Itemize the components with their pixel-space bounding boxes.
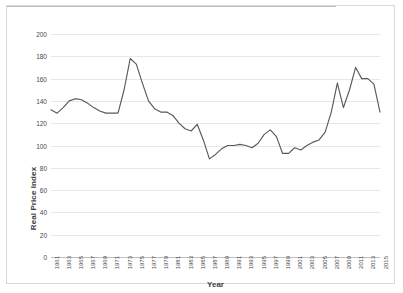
- x-tick-label: 1973: [127, 256, 134, 282]
- chart-container: Real Price Index 20018016014012010080604…: [6, 5, 395, 284]
- y-tick-label: 160: [7, 75, 47, 82]
- x-tick-label: 1997: [273, 256, 280, 282]
- x-tick-label: 2003: [309, 256, 316, 282]
- y-tick-label: 100: [7, 142, 47, 149]
- y-tick-label: 80: [7, 164, 47, 171]
- y-tick-label: 40: [7, 209, 47, 216]
- x-tick-label: 1979: [163, 256, 170, 282]
- x-tick-label: 1967: [90, 256, 97, 282]
- x-tick-label: 1961: [54, 256, 61, 282]
- y-tick-label: 140: [7, 97, 47, 104]
- plot-area: [51, 34, 380, 257]
- x-tick-label: 1999: [285, 256, 292, 282]
- x-tick-label: 2015: [383, 256, 390, 282]
- x-tick-label: 1987: [212, 256, 219, 282]
- x-tick-label: 2011: [358, 256, 365, 282]
- x-tick-label: 1963: [66, 256, 73, 282]
- line-series: [51, 34, 380, 257]
- y-tick-label: 120: [7, 120, 47, 127]
- x-tick-label: 1983: [188, 256, 195, 282]
- x-axis-title: Year: [51, 280, 380, 289]
- x-tick-label: 2007: [334, 256, 341, 282]
- y-axis-ticks: 200180160140120100806040200: [7, 34, 47, 257]
- x-tick-label: 1969: [102, 256, 109, 282]
- x-tick-label: 2009: [346, 256, 353, 282]
- x-tick-label: 1989: [224, 256, 231, 282]
- x-tick-label: 1977: [151, 256, 158, 282]
- y-tick-label: 200: [7, 31, 47, 38]
- x-tick-label: 2005: [322, 256, 329, 282]
- y-tick-label: 0: [7, 254, 47, 261]
- y-tick-label: 180: [7, 53, 47, 60]
- x-tick-label: 1981: [175, 256, 182, 282]
- x-axis-line: [7, 6, 336, 7]
- x-tick-label: 2001: [297, 256, 304, 282]
- x-tick-label: 1975: [139, 256, 146, 282]
- x-tick-label: 1991: [236, 256, 243, 282]
- x-tick-label: 1985: [200, 256, 207, 282]
- y-tick-label: 60: [7, 187, 47, 194]
- x-tick-label: 1995: [261, 256, 268, 282]
- x-tick-label: 1965: [78, 256, 85, 282]
- x-tick-label: 1971: [114, 256, 121, 282]
- x-tick-label: 1993: [248, 256, 255, 282]
- y-tick-label: 20: [7, 231, 47, 238]
- x-tick-label: 2013: [370, 256, 377, 282]
